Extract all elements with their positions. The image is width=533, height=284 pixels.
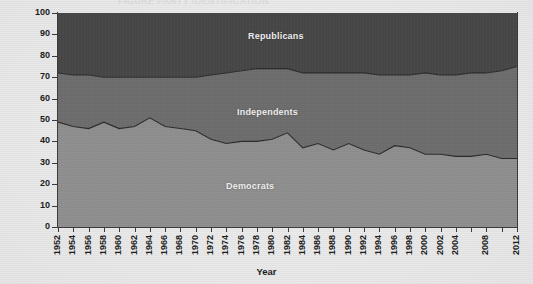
x-tick-label: 1962 (130, 235, 139, 255)
x-tick-label: 2004 (451, 235, 460, 255)
x-tick (89, 228, 90, 232)
x-tick-label: 2008 (481, 235, 490, 255)
x-tick (73, 228, 74, 232)
x-tick-label: 1980 (267, 235, 276, 255)
x-tick (471, 228, 472, 232)
x-tick-label: 1990 (344, 235, 353, 255)
x-tick (58, 228, 59, 232)
series-label-republicans: Republicans (248, 31, 304, 41)
x-tick-label: 1998 (405, 235, 414, 255)
x-tick (196, 228, 197, 232)
x-tick (257, 228, 258, 232)
x-tick-label: 1992 (359, 235, 368, 255)
y-tick-label: 50 (4, 115, 50, 124)
x-tick (226, 228, 227, 232)
x-tick (441, 228, 442, 232)
x-tick (364, 228, 365, 232)
y-axis-line (57, 12, 58, 228)
stacked-area-chart: Percentage 0102030405060708090100 195219… (0, 0, 533, 284)
x-tick (135, 228, 136, 232)
y-tick-label: 60 (4, 94, 50, 103)
series-label-democrats: Democrats (226, 181, 274, 191)
x-tick-label: 1960 (114, 235, 123, 255)
x-tick-label: 1978 (252, 235, 261, 255)
x-tick (272, 228, 273, 232)
y-tick-label: 10 (4, 201, 50, 210)
x-tick (119, 228, 120, 232)
x-tick (517, 228, 518, 232)
x-tick (180, 228, 181, 232)
y-tick-label: 0 (4, 222, 50, 231)
x-tick-label: 1954 (68, 235, 77, 255)
plot-right-border (517, 12, 518, 228)
x-tick-label: 1968 (175, 235, 184, 255)
x-tick (502, 228, 503, 232)
x-tick-label: 2002 (436, 235, 445, 255)
x-tick (395, 228, 396, 232)
x-tick-label: 1952 (53, 235, 62, 255)
y-tick-label: 90 (4, 29, 50, 38)
x-tick (349, 228, 350, 232)
x-tick (379, 228, 380, 232)
x-tick-label: 1976 (237, 235, 246, 255)
x-tick-label: 1958 (99, 235, 108, 255)
x-tick-label: 1966 (160, 235, 169, 255)
x-tick (456, 228, 457, 232)
y-tick-label: 40 (4, 136, 50, 145)
x-tick-label: 1986 (313, 235, 322, 255)
x-tick-label: 1974 (221, 235, 230, 255)
x-axis-title: Year (0, 266, 533, 277)
x-tick-label: 1988 (328, 235, 337, 255)
x-tick (165, 228, 166, 232)
x-tick (318, 228, 319, 232)
x-tick (104, 228, 105, 232)
y-tick-label: 80 (4, 51, 50, 60)
x-tick-label: 1964 (145, 235, 154, 255)
plot-area (58, 13, 517, 227)
y-tick-label: 30 (4, 158, 50, 167)
x-tick (211, 228, 212, 232)
area-series-svg (58, 13, 517, 227)
x-tick-label: 2000 (420, 235, 429, 255)
x-tick (150, 228, 151, 232)
x-tick (425, 228, 426, 232)
x-tick-label: 1970 (191, 235, 200, 255)
x-tick (333, 228, 334, 232)
x-tick-label: 1984 (298, 235, 307, 255)
x-tick (410, 228, 411, 232)
x-tick-label: 2012 (512, 235, 521, 255)
x-tick-label: 1996 (390, 235, 399, 255)
x-tick-label: 1956 (84, 235, 93, 255)
x-tick-label: 1972 (206, 235, 215, 255)
x-tick-label: 1982 (283, 235, 292, 255)
x-tick (288, 228, 289, 232)
series-label-independents: Independents (237, 107, 298, 117)
x-tick-label: 1994 (374, 235, 383, 255)
x-tick (303, 228, 304, 232)
y-tick-label: 100 (4, 8, 50, 17)
y-tick-label: 20 (4, 179, 50, 188)
x-tick (486, 228, 487, 232)
y-tick-label: 70 (4, 72, 50, 81)
area-band-republicans (58, 13, 517, 77)
x-tick (242, 228, 243, 232)
